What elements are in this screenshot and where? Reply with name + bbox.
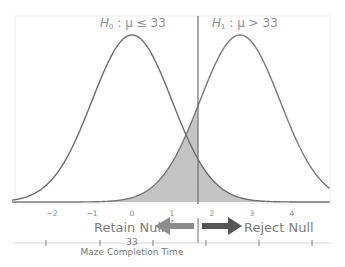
raw-tick-label: 33 <box>126 237 137 247</box>
retain-null-label: Retain Null <box>94 220 165 235</box>
svg-text:−1: −1 <box>86 209 97 218</box>
svg-text:2: 2 <box>210 209 215 218</box>
svg-text:3: 3 <box>250 209 255 218</box>
hypothesis-test-chart: H0 : μ ≤ 33 H1 : μ > 33 −2 −1 0 1 2 3 4 … <box>0 0 345 267</box>
raw-axis-title: Maze Completion Time <box>81 247 184 257</box>
svg-text:4: 4 <box>290 209 295 218</box>
svg-text:−2: −2 <box>46 209 57 218</box>
svg-text:0: 0 <box>130 209 135 218</box>
h0-label: H0 : μ ≤ 33 <box>100 16 166 31</box>
reject-arrow-icon <box>202 217 242 235</box>
h1-label: H1 : μ > 33 <box>212 16 278 31</box>
reject-null-label: Reject Null <box>244 220 314 235</box>
shaded-error-regions <box>12 107 330 202</box>
